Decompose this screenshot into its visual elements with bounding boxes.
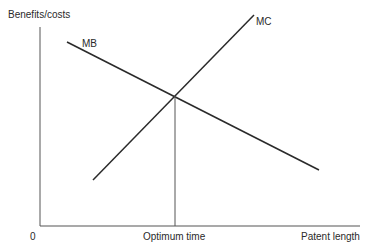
mc-curve [93,15,254,180]
diagram-canvas [0,0,376,251]
mb-label: MB [82,38,97,49]
origin-label: 0 [30,231,36,242]
optimum-time-label: Optimum time [143,231,205,242]
x-axis-label: Patent length [301,231,360,242]
mc-label: MC [256,16,272,27]
mb-curve [67,42,319,170]
y-axis-label: Benefits/costs [8,9,70,20]
